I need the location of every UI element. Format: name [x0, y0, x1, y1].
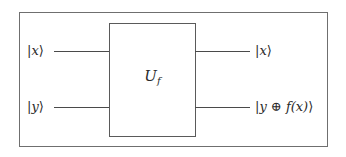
gate-label-subscript: f: [157, 75, 161, 86]
ket-close: ⟩: [308, 99, 313, 114]
input-ket-y: |y⟩: [27, 99, 44, 115]
output-wire-x: [195, 51, 250, 52]
output-wire-y: [195, 107, 250, 108]
output-ket-x: |x⟩: [255, 43, 272, 59]
ket-variable: y ⊕ f(x): [259, 99, 308, 114]
input-wire-y: [54, 107, 110, 108]
output-ket-y-xor-fx: |y ⊕ f(x)⟩: [255, 99, 313, 115]
gate-label: Uf: [110, 67, 195, 86]
input-wire-x: [54, 51, 110, 52]
ket-variable: x: [31, 43, 38, 58]
ket-variable: y: [31, 99, 38, 114]
gate-label-main: U: [144, 67, 157, 85]
ket-close: ⟩: [39, 43, 44, 58]
ket-variable: x: [259, 43, 266, 58]
oracle-gate: Uf: [109, 23, 196, 137]
ket-close: ⟩: [267, 43, 272, 58]
ket-close: ⟩: [39, 99, 44, 114]
input-ket-x: |x⟩: [27, 43, 44, 59]
